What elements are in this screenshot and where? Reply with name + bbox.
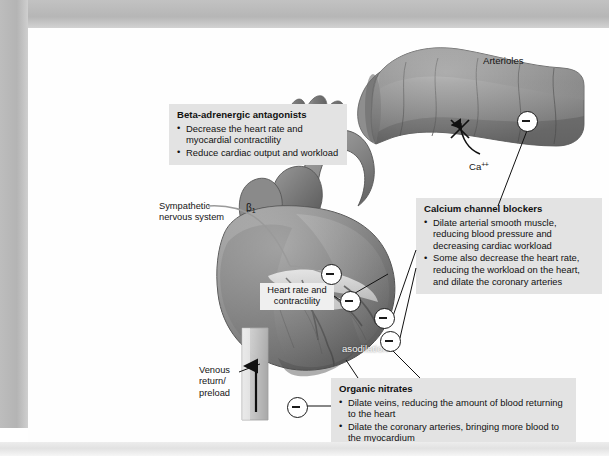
page-frame-left [0, 0, 28, 428]
minus-circle-beta-receptor [321, 264, 342, 285]
callout-title: Calcium channel blockers [424, 203, 594, 215]
calcium-symbol: Ca [469, 161, 481, 172]
figure-page: Arterioles Ca++ Sympathetic nervous syst… [0, 0, 609, 456]
beta1-receptor-label: β1 [246, 191, 256, 217]
minus-circle-venous-return [287, 397, 308, 418]
heart-rate-contractility-label: Heart rate and contractility [260, 283, 334, 310]
sympathetic-nervous-system-label: Sympathetic nervous system [159, 201, 224, 224]
ccb-to-arteriole-leader [498, 128, 528, 206]
callout-bullet-list: Dilate arterial smooth muscle, reducing … [424, 217, 594, 288]
callout-bullet: Dilate veins, reducing the amount of blo… [339, 397, 568, 420]
callout-bullet-list: Dilate veins, reducing the amount of blo… [339, 397, 568, 442]
callout-calcium-channel-blockers: Calcium channel blockers Dilate arterial… [416, 198, 602, 294]
callout-organic-nitrates: Organic nitrates Dilate veins, reducing … [331, 378, 576, 442]
arterioles-label: Arterioles [483, 55, 524, 66]
page-frame-top [0, 0, 609, 28]
callout-beta-adrenergic-antagonists: Beta-adrenergic antagonists Decrease the… [169, 104, 347, 165]
callout-title: Organic nitrates [339, 383, 568, 395]
venous-return-leader [239, 364, 260, 372]
x-cross-icon [451, 120, 469, 138]
calcium-label: Ca++ [469, 148, 488, 173]
minus-circle-vasodilation [380, 331, 401, 352]
vasodilation-leader [390, 348, 420, 378]
minus-circle-heart-rate [340, 291, 361, 312]
arteriole-illustration [358, 48, 584, 146]
minus-circle-arteriole [517, 111, 538, 132]
beta-subscript: 1 [252, 207, 256, 214]
minus-circle-coronary [374, 308, 395, 329]
callout-bullet-list: Decrease the heart rate and myocardial c… [177, 123, 339, 159]
venous-return-preload-label: Venous return/ preload [199, 365, 230, 399]
callout-bullet: Dilate arterial smooth muscle, reducing … [424, 217, 594, 252]
diagram-canvas: Arterioles Ca++ Sympathetic nervous syst… [28, 28, 609, 442]
callout-bullet: Dilate the coronary arteries, bringing m… [339, 421, 568, 442]
callout-bullet: Decrease the heart rate and myocardial c… [177, 123, 339, 146]
page-frame-bottom [0, 442, 609, 456]
calcium-charge: ++ [481, 161, 488, 168]
callout-bullet: Reduce cardiac output and workload [177, 147, 339, 159]
callout-title: Beta-adrenergic antagonists [177, 109, 339, 121]
callout-bullet: Some also decrease the heart rate, reduc… [424, 252, 594, 287]
